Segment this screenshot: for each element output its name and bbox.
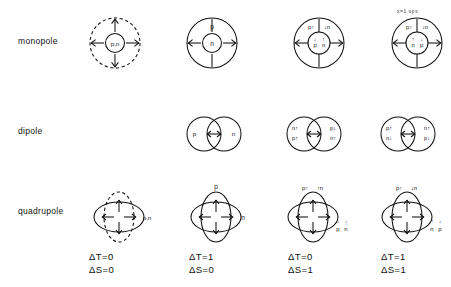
right-label-bottom: n↑ [330,135,336,141]
left-label: p [193,130,197,137]
top-label-right: ↓n [411,185,417,191]
quadrupole-dt0-ds1: p↑ ↑n ↓ ↓ p n [278,180,352,248]
right-label-left: n [430,226,433,232]
left-label-bottom: p↑ [292,135,298,141]
top-label-left: p↑ [302,185,308,191]
center-label: p,n [111,40,120,47]
inward-arrows [296,200,330,234]
monopole-dt0-ds0: p,n [84,12,146,74]
left-label-top: p↑ [386,125,392,131]
outer-label-left: p↑ [406,24,412,30]
figure-canvas: monopole dipole quadrupole x=1 ups p,n [0,0,451,287]
right-arrow-right: ↓ [345,218,348,224]
right-label: p,n [143,214,152,221]
delta-t-1: ΔT=0 [89,250,114,263]
top-label-right: ↑n [317,185,323,191]
inner-arrow-left: ↓ [314,36,317,42]
right-label-bottom: p↓ [424,135,430,141]
outer-label-left: p↑ [308,24,314,30]
quadrupole-dt1-ds0: p n [181,180,251,248]
row-label-quadrupole: quadrupole [18,206,64,216]
right-label: n [232,130,236,137]
inward-arrows [102,200,136,234]
quadrupole-dt0-ds0: p,n [84,186,154,248]
double-arrow [307,131,320,137]
double-arrow [401,131,414,137]
dipole-dt1-ds1: p↑ n↓ n↑ p↓ [372,110,444,158]
right-label-top: p↓ [330,125,336,131]
right-label-top: n↑ [424,125,430,131]
right-arrow-left: ↑ [431,218,434,224]
right-label-right: n [344,226,347,232]
inner-arrow-right: ↓ [420,36,423,42]
inward-arrows [199,200,233,234]
inner-arrow-right: ↑ [322,36,325,42]
dipole-dt0-ds1: n↑ p↑ p↓ n↑ [278,110,350,158]
inner-label-left: n [411,42,414,48]
right-arrow-right: ↓ [439,218,442,224]
delta-t-2: ΔT=1 [189,250,214,263]
monopole-dt0-ds1: p↑ ↓n p n ↓ ↑ [288,12,350,74]
inner-arrow-left: ↑ [412,36,415,42]
left-label-bottom: n↓ [386,135,392,141]
inner-label-right: n [322,42,325,48]
right-arrow-left: ↓ [337,218,340,224]
dipole-dt1-ds0: p n [178,110,250,158]
delta-t-3: ΔT=0 [288,250,313,263]
caption-col-4: ΔT=1 ΔS=1 [381,250,406,276]
delta-s-1: ΔS=0 [89,263,114,276]
left-label-top: n↑ [292,125,298,131]
top-label: p [214,183,218,191]
quadrupole-dt1-ds1: p↑ ↓n ↑ ↓ n p [372,180,446,248]
outer-label-right: ↓n [422,24,428,30]
inner-label-right: p [420,42,423,48]
delta-s-2: ΔS=0 [189,263,214,276]
double-arrow [207,131,220,137]
inner-label-left: p [313,42,316,48]
outer-label-right: ↓n [324,24,330,30]
caption-col-1: ΔT=0 ΔS=0 [89,250,114,276]
row-label-monopole: monopole [18,36,58,46]
top-label-left: p↑ [396,185,402,191]
delta-t-4: ΔT=1 [381,250,406,263]
right-label: n [241,214,245,221]
caption-col-3: ΔT=0 ΔS=1 [288,250,313,276]
delta-s-3: ΔS=1 [288,263,313,276]
right-label-right: p [438,226,442,232]
outer-label-p: p [210,23,214,31]
monopole-dt1-ds0: p n [181,12,243,74]
center-label-n: n [210,40,214,47]
inner-circle [406,32,428,54]
monopole-dt1-ds1: p↑ ↓n n p ↑ ↓ [386,12,448,74]
delta-s-4: ΔS=1 [381,263,406,276]
caption-col-2: ΔT=1 ΔS=0 [189,250,214,276]
inner-circle [308,32,330,54]
row-label-dipole: dipole [18,126,43,136]
right-label-left: p [336,226,340,232]
inward-arrows [390,200,424,234]
